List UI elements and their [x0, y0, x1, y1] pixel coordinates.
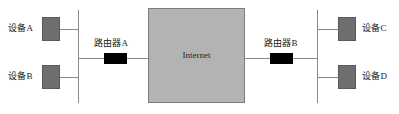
left-bus-line — [78, 10, 79, 103]
device-a-node[interactable] — [42, 17, 60, 41]
device-c-label: 设备C — [362, 23, 387, 34]
device-c-link — [317, 29, 338, 30]
device-a-link — [60, 29, 78, 30]
router-a-node[interactable] — [104, 53, 127, 64]
network-topology-diagram: 设备A 设备B 路由器A Internet 路由器B 设备C 设备D — [0, 0, 399, 114]
device-d-node[interactable] — [338, 65, 356, 89]
device-a-label: 设备A — [8, 23, 33, 34]
device-b-link — [60, 77, 78, 78]
router-b-to-right-bus-link — [293, 58, 317, 59]
right-bus-line — [317, 10, 318, 103]
internet-to-router-b-link — [245, 58, 270, 59]
router-a-to-internet-link — [127, 58, 148, 59]
device-d-link — [317, 77, 338, 78]
router-b-label: 路由器B — [264, 38, 298, 49]
device-b-label: 设备B — [8, 71, 33, 82]
device-c-node[interactable] — [338, 17, 356, 41]
router-a-label: 路由器A — [94, 38, 128, 49]
device-b-node[interactable] — [42, 65, 60, 89]
device-d-label: 设备D — [362, 71, 387, 82]
left-bus-to-router-a-link — [78, 58, 104, 59]
internet-label: Internet — [148, 50, 245, 61]
router-b-node[interactable] — [270, 53, 293, 64]
